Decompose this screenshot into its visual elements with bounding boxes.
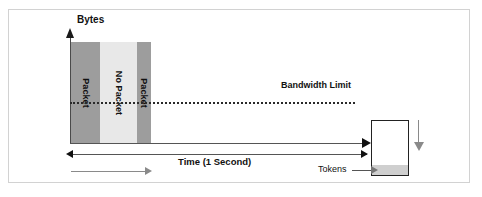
tokens-label: Tokens — [318, 164, 347, 174]
plot-area: Bytes Packet No Packet Packet Bandwidth … — [0, 0, 482, 197]
arrow-right-icon — [371, 166, 378, 174]
bar-packet-first: Packet — [71, 42, 100, 143]
x-axis-label: Time (1 Second) — [178, 156, 251, 167]
token-refill-arrow-line — [418, 120, 419, 144]
arrow-right-icon — [145, 167, 152, 175]
bar-no-packet: No Packet — [100, 42, 137, 143]
arrow-up-icon — [66, 28, 74, 38]
flow-arrow-line — [71, 171, 147, 172]
arrow-right-icon — [362, 138, 371, 148]
bandwidth-limit-label: Bandwidth Limit — [281, 80, 351, 90]
y-axis-label: Bytes — [77, 14, 104, 25]
x-axis-line — [70, 143, 367, 144]
arrow-left-icon — [66, 150, 73, 158]
token-bucket-figure: Bytes Packet No Packet Packet Bandwidth … — [0, 0, 482, 197]
arrow-down-icon — [414, 142, 424, 151]
time-span-line — [70, 154, 367, 155]
bar-packet-second: Packet — [137, 42, 151, 143]
bar-label-no-packet: No Packet — [114, 70, 124, 114]
arrow-right-icon — [361, 150, 368, 158]
bandwidth-limit-line — [70, 102, 355, 104]
